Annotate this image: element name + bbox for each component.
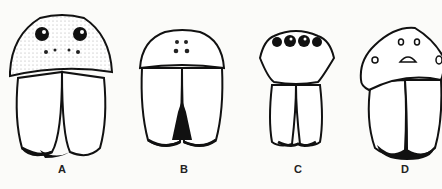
panel-b: B: [130, 0, 230, 189]
spider-face-c-illustration: [250, 0, 345, 189]
panel-d: D: [355, 0, 442, 189]
spider-face-b-illustration: [130, 0, 230, 189]
panel-a: A: [0, 0, 115, 189]
spider-face-a-illustration: [0, 0, 115, 189]
panel-label-a: A: [52, 163, 72, 175]
panel-label-d: D: [395, 163, 415, 175]
panel-c: C: [250, 0, 345, 189]
spider-face-d-illustration: [355, 0, 442, 189]
panel-label-c: C: [288, 163, 308, 175]
panel-label-b: B: [174, 163, 194, 175]
